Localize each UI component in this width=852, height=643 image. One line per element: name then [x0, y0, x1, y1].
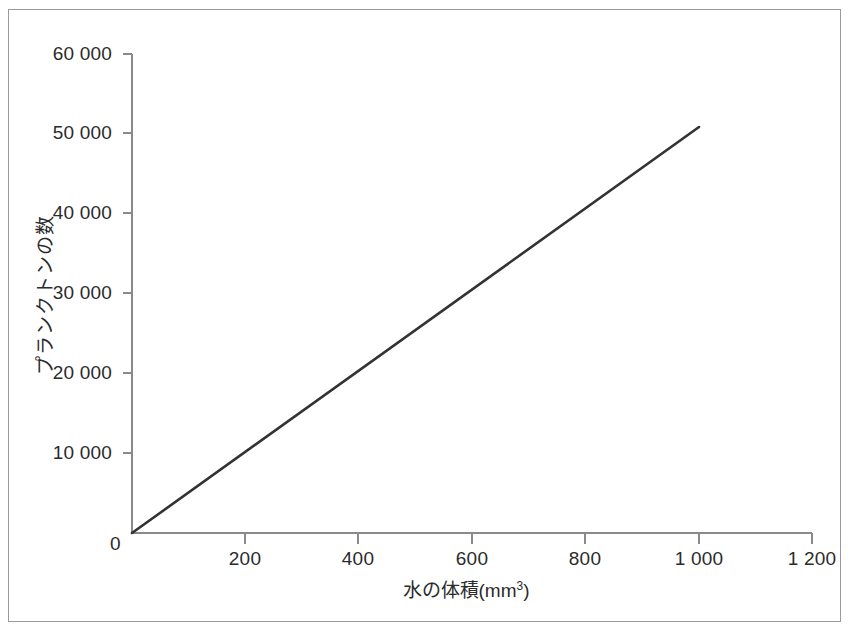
x-tick-label-600: 600 [456, 548, 488, 570]
origin-label: 0 [110, 533, 121, 555]
x-tick-label-1200: 1 200 [788, 548, 837, 570]
y-tick-label-50000: 50 000 [0, 122, 112, 144]
y-tick-marks [123, 54, 132, 453]
x-axis-title-exponent: 3 [516, 579, 523, 593]
data-line-plankton [132, 127, 699, 533]
x-axis-title-base: 水の体積(mm [403, 580, 517, 601]
y-axis-title: プランクトンの数 [30, 215, 57, 375]
y-tick-label-60000: 60 000 [0, 43, 112, 65]
x-tick-label-1000: 1 000 [675, 548, 724, 570]
x-tick-label-200: 200 [229, 548, 261, 570]
x-tick-label-400: 400 [342, 548, 374, 570]
x-tick-label-800: 800 [569, 548, 601, 570]
plot-area [0, 0, 852, 643]
x-axis-title-tail: ) [523, 580, 529, 601]
y-tick-label-10000: 10 000 [0, 442, 112, 464]
x-tick-marks [245, 533, 812, 544]
chart-figure: 60 000 50 000 40 000 30 000 20 000 10 00… [0, 0, 852, 643]
x-axis-title: 水の体積(mm3) [403, 575, 530, 602]
